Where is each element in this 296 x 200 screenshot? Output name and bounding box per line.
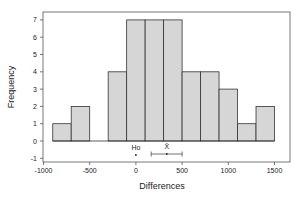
- y-tick-label: 4: [33, 68, 37, 75]
- mean-marker: [166, 153, 168, 155]
- y-tick-label: 3: [33, 86, 37, 93]
- x-tick-label: 500: [176, 167, 188, 174]
- histogram-bar: [145, 20, 163, 141]
- x-tick-label: 1500: [267, 167, 283, 174]
- histogram-bar: [201, 72, 219, 141]
- histogram-bar: [182, 72, 200, 141]
- y-tick-label: 5: [33, 51, 37, 58]
- histogram-bar: [127, 20, 145, 141]
- histogram-bar: [256, 106, 274, 141]
- histogram-bar: [108, 72, 126, 141]
- histogram-bar: [53, 124, 71, 141]
- histogram-chart: -1000-500050010001500 -101234567 HoX̄ Di…: [0, 0, 296, 200]
- histogram-bars: [53, 20, 275, 141]
- x-axis: -1000-500050010001500: [35, 162, 283, 174]
- y-tick-label: -1: [31, 155, 37, 162]
- y-tick-label: 0: [33, 138, 37, 145]
- y-axis: -101234567: [31, 16, 43, 161]
- histogram-bar: [71, 106, 89, 141]
- histogram-bar: [164, 20, 182, 141]
- histogram-bar: [219, 89, 237, 141]
- y-axis-label: Frequency: [6, 65, 16, 108]
- x-tick-label: 1000: [221, 167, 237, 174]
- x-axis-label: Differences: [139, 181, 185, 191]
- x-tick-label: -1000: [35, 167, 53, 174]
- y-tick-label: 6: [33, 34, 37, 41]
- x-tick-label: 0: [134, 167, 138, 174]
- h0-marker: [135, 154, 137, 156]
- y-tick-label: 7: [33, 16, 37, 23]
- h0-label: Ho: [131, 144, 140, 151]
- histogram-bar: [238, 124, 256, 141]
- y-tick-label: 1: [33, 120, 37, 127]
- x-tick-label: -500: [83, 167, 97, 174]
- hypothesis-annotations: HoX̄: [131, 143, 182, 157]
- y-tick-label: 2: [33, 103, 37, 110]
- xbar-label: X̄: [165, 143, 170, 150]
